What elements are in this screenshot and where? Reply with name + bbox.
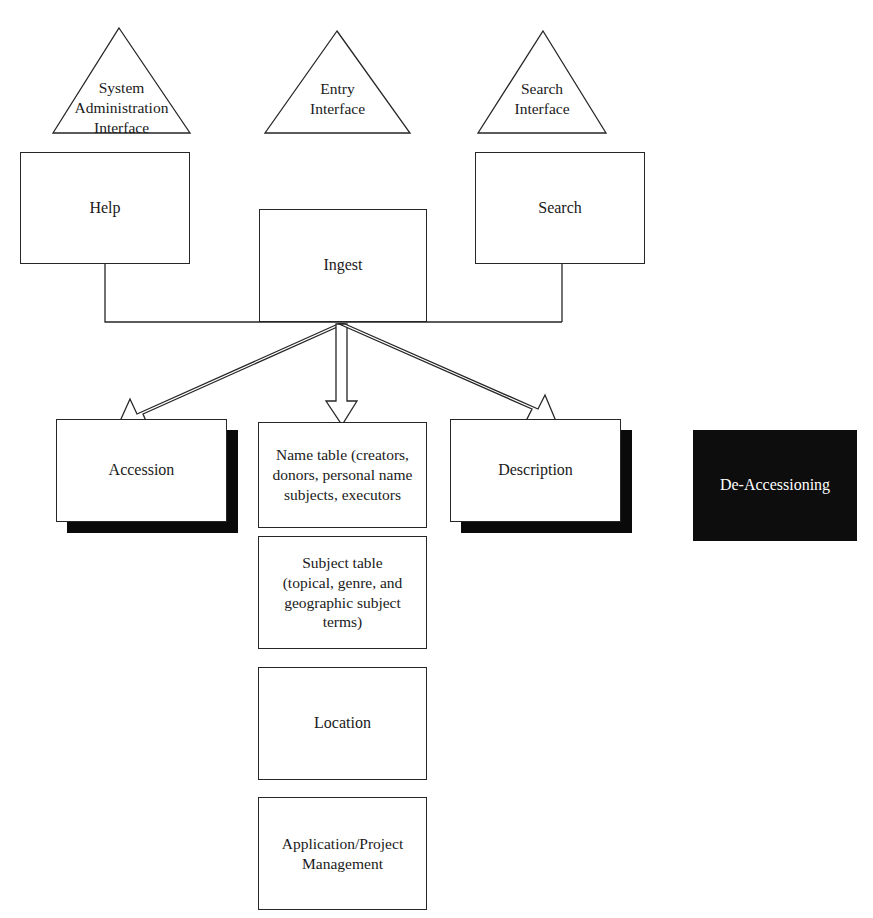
table-location-label: Location <box>308 713 377 733</box>
arrow-ingest-to-name-table <box>326 324 357 425</box>
module-search-label: Search <box>532 198 588 218</box>
entity-name-table-label: Name table (creators, donors, personal n… <box>267 445 419 504</box>
entry-interface-label: Entry Interface <box>265 79 410 119</box>
table-location[interactable]: Location <box>258 667 427 780</box>
entity-accession[interactable]: Accession <box>56 419 227 522</box>
entity-description[interactable]: Description <box>450 419 621 522</box>
diagram-canvas: System Administration Interface Entry In… <box>0 0 873 918</box>
module-ingest[interactable]: Ingest <box>259 209 427 322</box>
module-ingest-label: Ingest <box>317 255 368 275</box>
table-application-project-management-label: Application/Project Management <box>276 834 409 874</box>
table-subject-table[interactable]: Subject table (topical, genre, and geogr… <box>258 536 427 649</box>
module-help[interactable]: Help <box>20 152 190 264</box>
arrow-ingest-to-description <box>339 324 558 426</box>
module-help-label: Help <box>83 198 126 218</box>
standalone-de-accessioning[interactable]: De-Accessioning <box>693 430 857 541</box>
system-administration-interface-label: System Administration Interface <box>53 78 190 138</box>
entity-description-label: Description <box>492 460 579 480</box>
arrow-ingest-to-accession <box>116 324 344 430</box>
module-search[interactable]: Search <box>475 152 645 264</box>
search-interface-label: Search Interface <box>478 79 606 119</box>
entity-name-table[interactable]: Name table (creators, donors, personal n… <box>258 422 427 528</box>
table-application-project-management[interactable]: Application/Project Management <box>258 797 427 910</box>
standalone-de-accessioning-label: De-Accessioning <box>714 475 836 495</box>
entity-accession-label: Accession <box>103 460 181 480</box>
table-subject-table-label: Subject table (topical, genre, and geogr… <box>259 553 426 632</box>
